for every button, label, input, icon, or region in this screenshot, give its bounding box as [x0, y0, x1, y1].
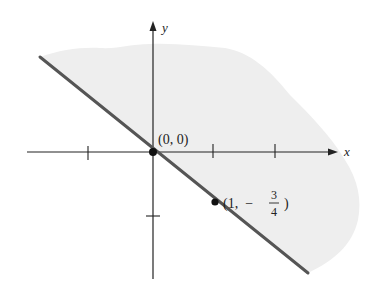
y-axis-arrow-icon — [150, 21, 157, 31]
point2-label-numerator: 3 — [271, 188, 277, 202]
point2-label-suffix: ) — [284, 196, 289, 212]
point2-label-denominator: 4 — [271, 205, 277, 219]
y-axis-label: y — [160, 20, 168, 35]
point-1-neg3-4 — [211, 198, 218, 205]
inequality-graph: y x (0, 0) (1, − 3 4 ) — [0, 0, 365, 291]
point2-label-prefix: (1, − — [223, 196, 253, 212]
origin-label: (0, 0) — [158, 132, 189, 148]
x-axis-label: x — [343, 144, 350, 159]
point-origin — [149, 148, 157, 156]
